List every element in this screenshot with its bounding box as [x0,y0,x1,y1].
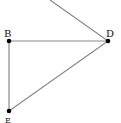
point-b [7,39,12,44]
point-e [7,109,12,114]
segment-d-to-top [50,0,108,41]
geometry-diagram: B D E [0,0,121,123]
point-d [106,39,111,44]
label-d: D [106,28,114,39]
label-e: E [5,116,11,123]
diagram-svg: B D E [0,0,121,123]
segment-ed [9,41,108,111]
label-b: B [4,28,11,39]
